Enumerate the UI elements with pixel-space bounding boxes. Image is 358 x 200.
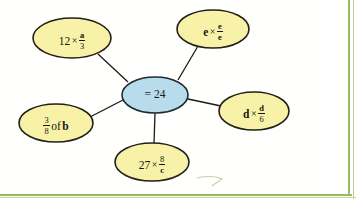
bubble-b-variable: b: [62, 120, 68, 132]
center-node-label: = 24: [125, 89, 185, 101]
bubble-a-whole: 12: [59, 35, 71, 47]
pencil-scribble-mark: [197, 177, 222, 186]
bubble-e-denominator: e: [217, 33, 223, 42]
connector-center-to-e: [178, 46, 198, 80]
page-frame-bottom-outer: [0, 197, 356, 198]
connector-center-to-a: [98, 54, 128, 82]
bubble-b-word: of: [50, 120, 63, 132]
multiply-icon-e: ×: [208, 26, 217, 37]
bubble-d-fraction: d6: [258, 104, 265, 124]
bubble-e-numerator: e: [217, 22, 223, 31]
bubble-c-denominator: c: [159, 166, 165, 175]
bubble-b-numerator: 3: [43, 116, 49, 125]
bubble-a-numerator: a: [79, 31, 85, 40]
bubble-label-a: 12×a3: [42, 31, 102, 51]
bubble-d-denominator: 6: [258, 115, 265, 124]
bubble-label-e: e×ee: [186, 22, 240, 42]
bubble-label-d: d×d6: [227, 104, 281, 124]
bubble-b-denominator: 8: [43, 127, 49, 136]
bubble-label-b: 38ofb: [28, 116, 84, 136]
multiply-icon-a: ×: [70, 35, 79, 46]
connector-center-to-d: [188, 99, 221, 106]
bubble-a-denominator: 3: [79, 42, 85, 51]
connector-center-to-b: [90, 100, 123, 117]
bubble-c-numerator: 8: [159, 155, 165, 164]
bubble-d-numerator: d: [258, 104, 265, 113]
page-frame-right-outer: [353, 0, 354, 199]
multiply-icon-d: ×: [250, 108, 259, 119]
page-canvas: 12×a3 e×ee d×d6 27×8c 38ofb = 24: [0, 0, 358, 200]
multiply-icon-c: ×: [150, 159, 159, 170]
bubble-label-c: 27×8c: [122, 155, 182, 175]
connector-center-to-c: [154, 113, 155, 144]
bubble-a-fraction: a3: [79, 31, 85, 51]
bubble-c-fraction: 8c: [159, 155, 165, 175]
page-frame-right: [348, 0, 350, 196]
page-frame-bottom: [0, 194, 352, 196]
bubble-e-fraction: ee: [217, 22, 223, 42]
bubble-d-whole: d: [243, 108, 249, 120]
bubble-b-fraction: 38: [43, 116, 49, 136]
bubble-c-whole: 27: [139, 159, 151, 171]
